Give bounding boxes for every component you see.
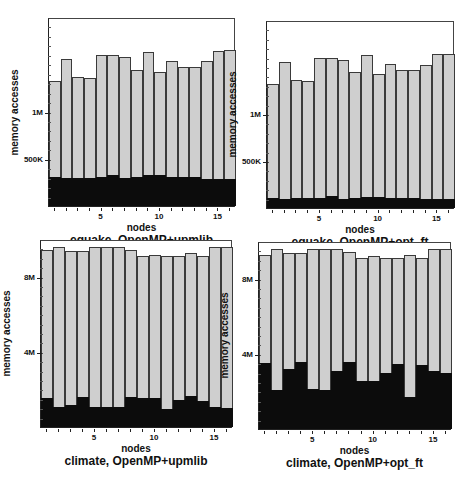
x-tick-mark <box>361 431 362 434</box>
bar-node-14 <box>420 21 432 208</box>
bar-node-16 <box>443 21 455 208</box>
bar-dark-segment <box>443 199 455 208</box>
bar-total-segment <box>349 72 361 209</box>
bar-node-11 <box>385 21 397 208</box>
bar-dark-segment <box>101 407 113 427</box>
y-minor-tick <box>48 179 51 180</box>
bar-node-14 <box>197 240 209 427</box>
x-tick-label: 5 <box>84 434 104 442</box>
bar-node-5 <box>307 242 319 429</box>
x-tick-label: 10 <box>368 215 388 223</box>
y-minor-tick <box>40 259 43 260</box>
bar-dark-segment <box>396 198 408 208</box>
bar-node-8 <box>131 18 143 206</box>
bar-dark-segment <box>319 390 331 429</box>
bar-dark-segment <box>428 371 440 429</box>
y-minor-tick <box>258 392 261 393</box>
x-tick-mark <box>272 210 273 213</box>
bar-dark-segment <box>61 178 73 206</box>
bar-node-16 <box>440 242 452 429</box>
y-minor-tick <box>266 87 269 88</box>
bar-node-2 <box>279 21 291 208</box>
bar-total-segment <box>338 60 350 208</box>
x-tick-mark <box>101 208 102 211</box>
y-tick-mark <box>263 162 268 163</box>
x-tick-mark <box>112 208 113 211</box>
x-tick-mark <box>413 210 414 213</box>
x-tick-mark <box>118 429 119 432</box>
x-tick-mark <box>142 429 143 432</box>
bar-node-5 <box>96 18 108 206</box>
y-minor-tick <box>48 150 51 151</box>
bar-node-3 <box>72 18 84 206</box>
bar-dark-segment <box>213 179 225 206</box>
bar-node-15 <box>213 18 225 206</box>
bar-node-5 <box>314 21 326 208</box>
x-tick-mark <box>276 431 277 434</box>
bar-dark-segment <box>107 175 119 206</box>
bar-dark-segment <box>420 199 432 208</box>
x-tick-mark <box>401 210 402 213</box>
x-tick-mark <box>385 431 386 434</box>
y-minor-tick <box>266 49 269 50</box>
x-tick-mark <box>159 208 160 211</box>
y-minor-tick <box>48 94 51 95</box>
bar-dark-segment <box>271 390 283 429</box>
y-axis-label: memory accesses <box>227 55 238 175</box>
bar-node-6 <box>101 240 113 427</box>
bar-dark-segment <box>72 178 84 206</box>
y-minor-tick <box>258 336 261 337</box>
y-minor-tick <box>258 308 261 309</box>
bar-node-12 <box>178 18 190 206</box>
y-minor-tick <box>266 153 269 154</box>
y-minor-tick <box>48 169 51 170</box>
bar-dark-segment <box>201 179 213 206</box>
x-tick-mark <box>264 431 265 434</box>
y-minor-tick <box>48 141 51 142</box>
y-minor-tick <box>40 315 43 316</box>
x-axis-label: nodes <box>48 222 235 233</box>
bar-node-15 <box>428 242 440 429</box>
y-minor-tick <box>48 46 51 47</box>
bar-node-10 <box>154 18 166 206</box>
x-tick-mark <box>436 210 437 213</box>
x-tick-mark <box>154 429 155 432</box>
bar-node-13 <box>189 18 201 206</box>
x-tick-mark <box>433 431 434 434</box>
bar-node-9 <box>361 21 373 208</box>
y-minor-tick <box>266 106 269 107</box>
x-tick-label: 15 <box>207 213 227 221</box>
y-minor-tick <box>40 268 43 269</box>
y-minor-tick <box>258 411 261 412</box>
bar-dark-segment <box>408 198 420 208</box>
x-tick-mark <box>178 429 179 432</box>
bar-dark-segment <box>440 373 452 429</box>
y-minor-tick <box>266 171 269 172</box>
bar-total-segment <box>373 74 385 208</box>
bar-node-7 <box>331 242 343 429</box>
y-minor-tick <box>258 421 261 422</box>
bar-node-9 <box>356 242 368 429</box>
y-minor-tick <box>40 390 43 391</box>
bar-dark-segment <box>77 397 89 427</box>
y-minor-tick <box>266 200 269 201</box>
y-minor-tick <box>48 103 51 104</box>
x-tick-mark <box>421 431 422 434</box>
bar-dark-segment <box>209 407 221 427</box>
bar-total-segment <box>443 54 455 208</box>
x-tick-mark <box>284 210 285 213</box>
y-minor-tick <box>266 134 269 135</box>
bar-dark-segment <box>356 381 368 429</box>
bar-dark-segment <box>89 407 101 427</box>
bar-dark-segment <box>154 175 166 206</box>
x-tick-mark <box>342 210 343 213</box>
x-tick-mark <box>319 210 320 213</box>
bar-node-6 <box>326 21 338 208</box>
bar-dark-segment <box>161 409 173 427</box>
bar-dark-segment <box>373 197 385 208</box>
bar-node-4 <box>295 242 307 429</box>
bar-total-segment <box>53 247 65 427</box>
y-minor-tick <box>48 65 51 66</box>
bar-total-segment <box>89 247 101 427</box>
y-axis-label: memory accesses <box>9 52 20 172</box>
